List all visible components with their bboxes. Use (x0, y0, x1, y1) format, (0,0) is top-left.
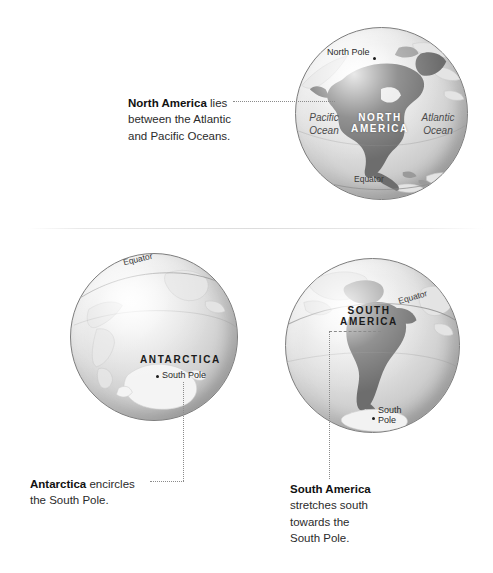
label-south-pole-south-america: South Pole (378, 405, 402, 425)
label-equator-globe1: Equator (354, 175, 384, 185)
globe-south-america (285, 258, 460, 433)
label-antarctica: ANTARCTICA (140, 354, 221, 365)
leader-line-south-america-top (329, 331, 381, 332)
section-divider (28, 228, 483, 229)
globe-antarctica (70, 253, 238, 421)
caption-north-america: North America lies between the Atlantic … (128, 95, 278, 144)
label-south-pole-antarctica: South Pole (162, 370, 206, 380)
leader-line-south-america (329, 331, 330, 479)
label-atlantic-ocean: Atlantic Ocean (414, 112, 462, 137)
globe-south-america-map (286, 259, 459, 432)
label-north-pole: North Pole (327, 47, 370, 57)
leader-line-north-america (233, 101, 335, 102)
label-north-america: NORTH AMERICA (345, 112, 415, 134)
caption-antarctica-bold: Antarctica (30, 478, 86, 490)
caption-north-america-bold: North America (128, 97, 207, 109)
caption-south-america: South America stretches south towards th… (290, 481, 450, 546)
leader-line-antarctica (183, 382, 184, 481)
caption-antarctica: Antarctica encircles the South Pole. (30, 476, 200, 509)
globe-antarctica-map (71, 254, 237, 420)
label-south-america: SOUTH AMERICA (331, 305, 407, 327)
label-pacific-ocean: Pacific Ocean (301, 112, 347, 137)
north-pole-dot (373, 57, 376, 60)
south-pole-dot-south-america (372, 417, 375, 420)
south-pole-dot-antarctica (156, 375, 159, 378)
caption-south-america-bold: South America (290, 483, 371, 495)
